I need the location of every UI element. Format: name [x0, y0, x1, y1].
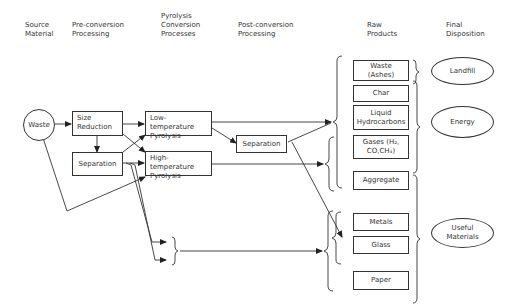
- node-separation-pre: Separation: [72, 152, 123, 176]
- node-char: Char: [353, 85, 409, 102]
- node-low-temperature-pyrolysis: Low-temperature Pyrolysis: [145, 111, 212, 136]
- node-aggregate: Aggregate: [353, 171, 409, 190]
- node-gases: Gases (H₂, CO,CH₄): [353, 135, 409, 159]
- node-liquid-hydrocarbons: Liquid Hydrocarbons: [353, 105, 409, 130]
- node-waste-source: Waste: [23, 109, 55, 141]
- node-waste-ashes: Waste (Ashes): [353, 60, 409, 81]
- node-glass: Glass: [353, 236, 409, 254]
- header-raw-products: Raw Products: [367, 21, 397, 39]
- header-pyrolysis: Pyrolysis Conversion Processes: [161, 12, 200, 39]
- node-high-temperature-pyrolysis: High-temperature Pyrolysis: [145, 151, 212, 176]
- node-metals: Metals: [353, 213, 409, 231]
- header-pre-conversion: Pre-conversion Processing: [72, 21, 124, 39]
- node-landfill: Landfill: [431, 57, 494, 85]
- node-useful-materials: Useful Materials: [431, 218, 494, 248]
- node-size-reduction: Size Reduction: [72, 111, 123, 136]
- node-energy: Energy: [431, 106, 494, 138]
- header-post-conversion: Post-conversion Processing: [238, 21, 293, 39]
- node-separation-post: Separation: [236, 135, 287, 153]
- header-source-material: Source Material: [25, 21, 53, 39]
- header-final-disposition: Final Disposition: [446, 21, 485, 39]
- node-paper: Paper: [353, 271, 409, 290]
